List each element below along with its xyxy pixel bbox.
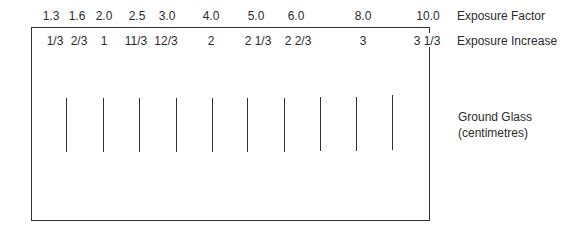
exposure-increase-value: 1 xyxy=(101,34,108,48)
ground-glass-line xyxy=(392,95,393,150)
ground-glass-label: Ground Glass (centimetres) xyxy=(458,109,532,141)
exposure-factor-value: 10.0 xyxy=(416,9,439,23)
exposure-factor-value: 5.0 xyxy=(248,9,265,23)
frame-left-border xyxy=(31,27,32,221)
exposure-factor-value: 1.6 xyxy=(69,9,86,23)
ground-glass-line xyxy=(139,98,140,152)
exposure-increase-value: 1/3 xyxy=(47,34,64,48)
exposure-factor-label: Exposure Factor xyxy=(457,9,545,23)
ground-glass-line xyxy=(176,98,177,152)
exposure-increase-value: 2 2/3 xyxy=(285,34,312,48)
exposure-factor-value: 2.5 xyxy=(129,9,146,23)
ground-glass-line xyxy=(320,97,321,151)
frame-corner-tick xyxy=(429,27,430,33)
exposure-factor-value: 6.0 xyxy=(288,9,305,23)
ground-glass-line xyxy=(103,98,104,152)
exposure-increase-value: 2/3 xyxy=(71,34,88,48)
exposure-increase-value: 3 xyxy=(360,34,367,48)
frame-bottom-border xyxy=(31,220,430,221)
ground-glass-line xyxy=(212,98,213,152)
frame-right-border xyxy=(429,47,430,221)
ground-glass-line xyxy=(66,98,67,152)
exposure-factor-value: 3.0 xyxy=(159,9,176,23)
ground-glass-label-line2: (centimetres) xyxy=(458,125,532,141)
ground-glass-line xyxy=(356,97,357,151)
frame-top-border xyxy=(31,27,429,28)
exposure-increase-value: 11/3 xyxy=(125,34,147,48)
exposure-increase-value: 3 1/3 xyxy=(414,34,441,48)
ground-glass-line xyxy=(247,98,248,152)
exposure-increase-label: Exposure Increase xyxy=(457,34,557,48)
ground-glass-label-line1: Ground Glass xyxy=(458,109,532,125)
ground-glass-line xyxy=(284,98,285,152)
exposure-increase-value: 2 1/3 xyxy=(245,34,272,48)
exposure-factor-value: 2.0 xyxy=(96,9,113,23)
exposure-factor-value: 1.3 xyxy=(43,9,60,23)
exposure-factor-value: 8.0 xyxy=(355,9,372,23)
exposure-increase-value: 2 xyxy=(208,34,215,48)
exposure-increase-value: 12/3 xyxy=(154,34,177,48)
exposure-factor-value: 4.0 xyxy=(203,9,220,23)
